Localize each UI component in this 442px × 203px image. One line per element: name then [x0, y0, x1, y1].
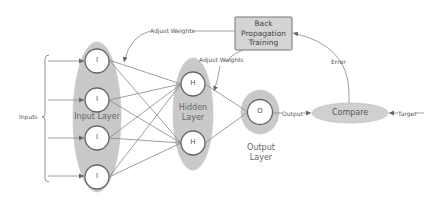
output-node-label: O — [248, 107, 272, 115]
compare-label: Compare — [332, 108, 368, 117]
error-edge-label: Error — [331, 58, 346, 65]
input-node-4-label: I — [85, 172, 109, 180]
input-node-2-label: I — [85, 95, 109, 103]
backprop-line1: Back — [254, 19, 272, 29]
inputs-label: Inputs — [19, 113, 38, 120]
backprop-line2: Propagation — [241, 29, 286, 39]
adjust-weights-label-1: Adjust Weights — [150, 27, 195, 34]
hidden-layer-label-line1: Hidden — [173, 103, 213, 113]
input-layer-label: Input Layer — [72, 112, 122, 122]
hidden-node-1-label: H — [181, 79, 205, 87]
backprop-line3: Training — [249, 38, 279, 48]
backprop-label: Back Propagation Training — [235, 17, 292, 50]
error-arrow — [293, 33, 349, 103]
output-edge-label: Output — [282, 110, 303, 117]
adjust-weights-label-2: Adjust Weights — [199, 56, 244, 63]
hidden-layer-label: Hidden Layer — [173, 103, 213, 123]
input-node-1-label: I — [85, 56, 109, 64]
input-node-3-label: I — [85, 133, 109, 141]
hidden-node-2-label: H — [181, 138, 205, 146]
inputs-brace — [42, 55, 49, 182]
neural-network-diagram — [0, 0, 442, 203]
output-layer-label: Output Layer — [236, 143, 286, 163]
hidden-layer-label-line2: Layer — [173, 113, 213, 123]
target-edge-label: Target — [398, 110, 417, 117]
